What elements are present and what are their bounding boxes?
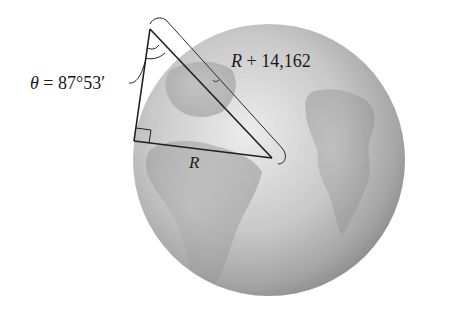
earth-triangle-diagram: θ = 87°53′ R + 14,162 R: [0, 0, 454, 312]
hypotenuse-addend: + 14,162: [242, 51, 311, 71]
angle-label: θ = 87°53′: [30, 73, 105, 94]
angle-equals: =: [39, 73, 58, 93]
hypotenuse-label: R + 14,162: [231, 51, 311, 72]
hypotenuse-variable: R: [231, 51, 242, 71]
angle-arc-inner: [147, 45, 159, 49]
diagram-canvas: [0, 0, 454, 312]
angle-arc-outer: [145, 53, 165, 59]
angle-value: 87°53′: [58, 73, 105, 93]
theta-symbol: θ: [30, 73, 39, 93]
radius-label: R: [189, 153, 199, 173]
